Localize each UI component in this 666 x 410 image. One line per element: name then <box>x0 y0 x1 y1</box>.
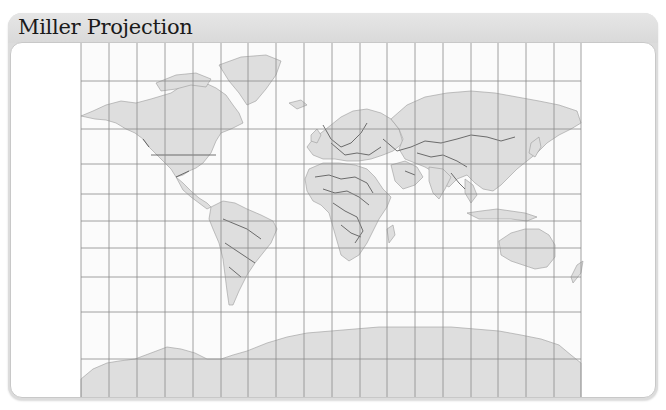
world-map[interactable] <box>11 43 656 398</box>
map-viewport[interactable] <box>10 42 656 398</box>
map-panel: Miller Projection <box>8 13 658 400</box>
panel-title: Miller Projection <box>18 15 193 39</box>
panel-header: Miller Projection <box>8 13 658 43</box>
